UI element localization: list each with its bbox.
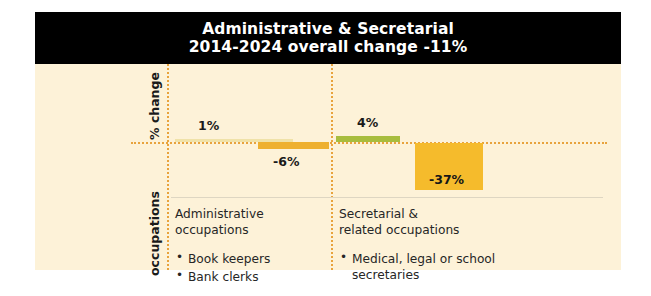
category-divider-middle [331, 64, 333, 270]
chart-title-line-2: 2014-2024 overall change -11% [189, 38, 468, 56]
occupation-group-heading: Secretarial & related occupations [339, 206, 519, 238]
bar-label-administrative-negative: -6% [273, 154, 299, 169]
category-divider-left [167, 64, 169, 270]
occupation-list: Medical, legal or school secretaries [339, 251, 519, 283]
occupation-list: Book keepers Bank clerks [175, 251, 325, 285]
infographic-card: Administrative & Secretarial 2014-2024 o… [35, 12, 621, 270]
chart-plot-area: % change occupations 1% -6% 4% -37% Admi… [35, 64, 621, 270]
occupation-group-administrative: Administrative occupations Book keepers … [175, 206, 325, 287]
zero-baseline [131, 142, 607, 144]
list-item: Bank clerks [175, 269, 325, 285]
list-item: Book keepers [175, 251, 325, 267]
chart-title-banner: Administrative & Secretarial 2014-2024 o… [35, 12, 621, 64]
x-axis-caption: occupations [147, 191, 162, 276]
bar-administrative-negative [258, 142, 329, 149]
chart-title-line-1: Administrative & Secretarial [202, 20, 454, 38]
bar-label-administrative-positive: 1% [198, 118, 219, 133]
bar-secretarial-positive [336, 136, 400, 142]
list-item: Medical, legal or school secretaries [339, 251, 519, 283]
section-divider [171, 197, 603, 198]
y-axis-caption: % change [147, 72, 162, 140]
bar-label-secretarial-positive: 4% [357, 115, 378, 130]
occupation-group-heading: Administrative occupations [175, 206, 325, 238]
occupation-group-secretarial: Secretarial & related occupations Medica… [339, 206, 519, 285]
bar-label-secretarial-negative: -37% [429, 172, 464, 187]
